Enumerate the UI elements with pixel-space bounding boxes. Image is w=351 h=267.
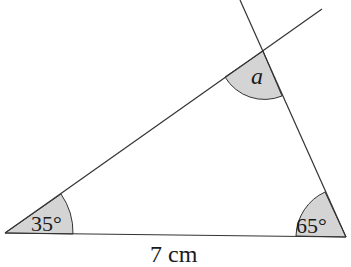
angle-label-top: a [251,63,263,89]
triangle-diagram: 35° 65° a 7 cm [0,0,351,267]
angle-label-left: 35° [31,211,62,236]
angle-label-right: 65° [296,213,327,238]
side-left-extended [5,9,322,233]
side-label-bottom: 7 cm [150,241,198,267]
side-right-extended [240,0,346,237]
